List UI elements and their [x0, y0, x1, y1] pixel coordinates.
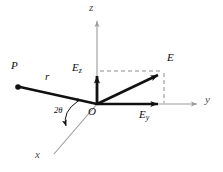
angle-arc — [65, 101, 78, 126]
vector-label-E: E — [167, 52, 174, 63]
vector-r-line — [20, 87, 97, 104]
axis-label-y: y — [205, 94, 210, 105]
vector-r — [15, 84, 97, 104]
angle-label-two-theta: 2θ — [54, 106, 62, 115]
angle-two-theta — [65, 98, 79, 126]
vector-label-Ez-subscript: z — [79, 66, 82, 75]
diagram-canvas — [0, 0, 223, 172]
vector-label-Ey-base: E — [139, 108, 146, 120]
vector-label-r: r — [45, 71, 49, 82]
vector-label-Ey-subscript: y — [146, 113, 150, 122]
point-label-P: P — [11, 60, 18, 71]
vector-E-arrow — [97, 75, 158, 104]
point-label-O: O — [88, 106, 96, 117]
point-P-dot — [15, 84, 21, 90]
axis-label-x: x — [35, 149, 40, 160]
vector-label-Ez: Ez — [72, 62, 82, 75]
vector-diagram-figure: z y x E Ez Ey r P O 2θ — [0, 0, 223, 172]
vector-label-Ey: Ey — [139, 109, 149, 122]
axis-label-z: z — [89, 2, 93, 13]
vector-label-Ez-base: E — [72, 61, 79, 73]
